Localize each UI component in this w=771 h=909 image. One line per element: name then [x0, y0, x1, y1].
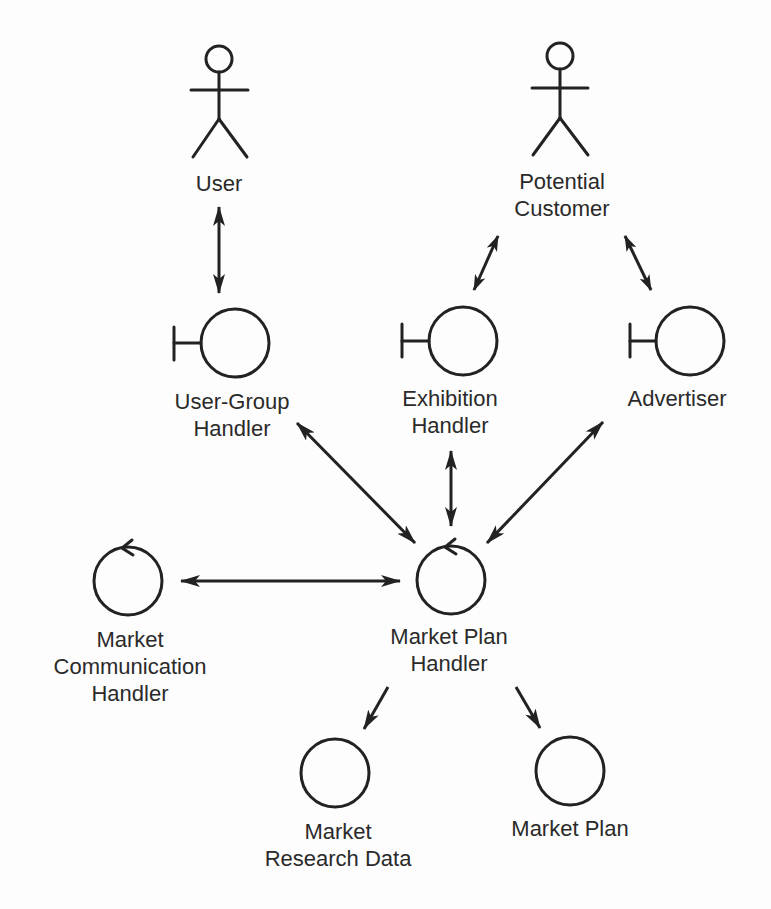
label-line: Handler: [390, 650, 507, 677]
boundary-user-group-handler-icon[interactable]: [174, 309, 269, 377]
actor-potential-customer-icon[interactable]: [532, 43, 588, 155]
edge-marketplanhandler-marketplan[interactable]: [516, 687, 540, 728]
boundary-exhibition-handler-icon[interactable]: [402, 307, 497, 375]
label-line: Exhibition: [402, 385, 497, 412]
control-market-communication-handler-icon[interactable]: [94, 540, 162, 615]
label-line: Market Plan: [390, 623, 507, 650]
label-user: User: [196, 170, 242, 197]
label-line: Market: [265, 818, 412, 845]
label-line: Handler: [402, 412, 497, 439]
label-line: Market Plan: [511, 815, 628, 842]
label-market-research-data: Market Research Data: [265, 818, 412, 872]
robustness-diagram: [0, 0, 771, 909]
actor-user-icon[interactable]: [191, 46, 248, 157]
edge-advertiser-marketplanhandler[interactable]: [487, 422, 603, 543]
entity-market-research-data-icon[interactable]: [301, 739, 369, 807]
label-market-communication-handler: Market Communication Handler: [54, 626, 207, 707]
label-line: Potential: [514, 168, 609, 195]
label-line: Handler: [54, 680, 207, 707]
label-market-plan: Market Plan: [511, 815, 628, 842]
label-line: Customer: [514, 195, 609, 222]
label-line: Handler: [175, 415, 290, 442]
label-advertiser: Advertiser: [627, 385, 726, 412]
edge-customer-exhibition[interactable]: [474, 236, 498, 290]
control-market-plan-handler-icon[interactable]: [417, 539, 485, 614]
label-line: Research Data: [265, 845, 412, 872]
label-line: Advertiser: [627, 385, 726, 412]
label-market-plan-handler: Market Plan Handler: [390, 623, 507, 677]
boundary-advertiser-icon[interactable]: [630, 307, 724, 375]
label-line: Communication: [54, 653, 207, 680]
edge-marketplanhandler-researchdata[interactable]: [364, 687, 388, 729]
edge-usergroup-marketplanhandler[interactable]: [297, 423, 415, 543]
label-line: Market: [54, 626, 207, 653]
label-user-group-handler: User-Group Handler: [175, 388, 290, 442]
label-line: User-Group: [175, 388, 290, 415]
label-line: User: [196, 170, 242, 197]
label-potential-customer: Potential Customer: [514, 168, 609, 222]
edge-customer-advertiser[interactable]: [625, 236, 651, 290]
entity-market-plan-icon[interactable]: [536, 737, 604, 805]
label-exhibition-handler: Exhibition Handler: [402, 385, 497, 439]
